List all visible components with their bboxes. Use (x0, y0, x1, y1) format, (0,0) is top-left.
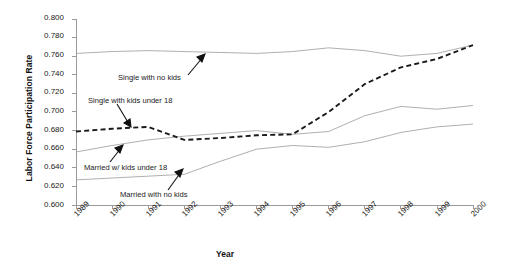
annotation-married-no-kids: Married with no kids (120, 190, 188, 199)
series-line-single-kids (76, 45, 473, 140)
series-line-single-no-kids (76, 45, 473, 56)
annotation-married-kids: Married w/ kids under 18 (84, 163, 167, 172)
series-line-married-kids (76, 105, 473, 152)
annotation-single-no-kids: Single with no kids (118, 73, 181, 82)
chart-container: Labor Force Participation Rate Year 0.60… (0, 0, 508, 266)
annotation-single-kids: Single with kids under 18 (88, 96, 172, 105)
series-lines (0, 0, 508, 266)
